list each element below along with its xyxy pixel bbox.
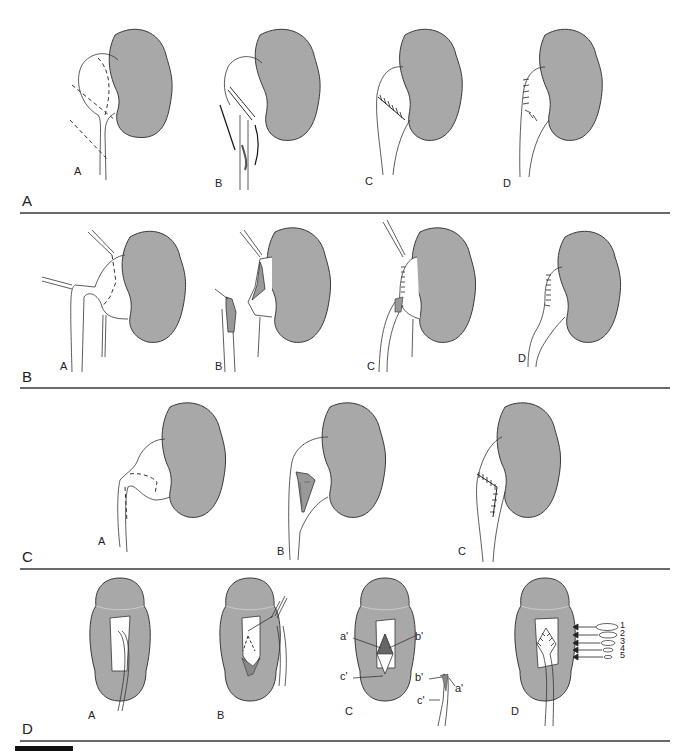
section-label: A	[22, 192, 32, 209]
kidney-spiral-flap-outline-drawing	[95, 402, 235, 552]
annotation-c-prime-ureter: c'	[417, 694, 425, 706]
subfigure-label: B	[217, 709, 224, 721]
section-divider	[20, 387, 670, 389]
kidney-repair-drawing	[495, 25, 625, 185]
kidney-pelvis-drawing	[60, 25, 190, 185]
kidney-flap-complete-drawing	[520, 227, 650, 372]
panel-a-sub-d: D	[495, 25, 625, 185]
kidney-resection-drawing	[210, 25, 340, 190]
panel-a-sub-c: C	[355, 25, 485, 185]
annotation-c-prime: c'	[340, 670, 348, 682]
subfigure-label: A	[74, 165, 81, 177]
section-label: B	[22, 368, 32, 385]
section-divider	[20, 740, 670, 742]
panel-a-sub-a: A	[60, 25, 190, 185]
subfigure-label: A	[60, 360, 67, 372]
subfigure-label: A	[88, 709, 95, 721]
panel-c-sub-b: B	[270, 402, 410, 562]
section-label: C	[22, 548, 33, 565]
annotation-a-prime-ureter: a'	[455, 682, 463, 694]
panel-b-sub-d: D	[520, 227, 650, 372]
panel-a: A B C D A	[0, 0, 689, 215]
subfigure-label: D	[518, 352, 526, 364]
panel-c-sub-c: C	[455, 402, 595, 572]
subfigure-label: B	[277, 545, 284, 557]
kidney-anastomosis-drawing	[355, 25, 485, 185]
kidney-spiral-flap-rotated-drawing	[270, 402, 410, 562]
panel-d-sub-c: a' b' c' b' a' c' C	[345, 576, 475, 726]
panel-c: A B C C	[0, 390, 689, 570]
kidney-flap-created-drawing	[210, 227, 350, 372]
panel-b: A B C D B	[0, 215, 689, 390]
section-label: D	[22, 720, 33, 737]
kidney-intrarenal-incision-drawing	[215, 576, 305, 716]
figure-caption-bar	[15, 746, 73, 751]
kidney-flap-anastomosis-drawing	[365, 227, 495, 372]
subfigure-label: D	[511, 705, 519, 717]
kidney-spiral-flap-sutured-drawing	[455, 402, 595, 572]
subfigure-label: D	[503, 177, 511, 189]
panel-b-sub-b: B	[210, 227, 350, 372]
kidney-flap-points-drawing	[345, 576, 475, 726]
panel-d: A B a' b' c' b' a' c' C	[0, 570, 689, 751]
kidney-intrarenal-exposure-drawing	[80, 576, 160, 716]
section-divider	[20, 212, 670, 214]
subfigure-label: C	[458, 545, 466, 557]
subfigure-label: B	[215, 177, 222, 189]
panel-d-sub-a: A	[80, 576, 160, 716]
panel-d-sub-b: B	[215, 576, 305, 716]
annotation-b-prime-ureter: b'	[415, 671, 423, 683]
panel-b-sub-a: A	[40, 227, 190, 372]
legend-5: 5	[620, 650, 625, 660]
panel-d-sub-d: 1 2 3 4 5 D	[510, 576, 660, 726]
panel-c-sub-a: A	[95, 402, 235, 552]
annotation-a-prime: a'	[340, 630, 348, 642]
kidney-graded-closure-drawing	[510, 576, 660, 726]
panel-a-sub-b: B	[210, 25, 340, 190]
subfigure-label: C	[367, 360, 375, 372]
subfigure-label: A	[98, 535, 105, 547]
subfigure-label: C	[345, 705, 353, 717]
subfigure-label: C	[365, 175, 373, 187]
annotation-b-prime: b'	[415, 630, 423, 642]
kidney-flap-outline-drawing	[40, 227, 190, 372]
subfigure-label: B	[215, 360, 222, 372]
panel-b-sub-c: C	[365, 227, 495, 372]
